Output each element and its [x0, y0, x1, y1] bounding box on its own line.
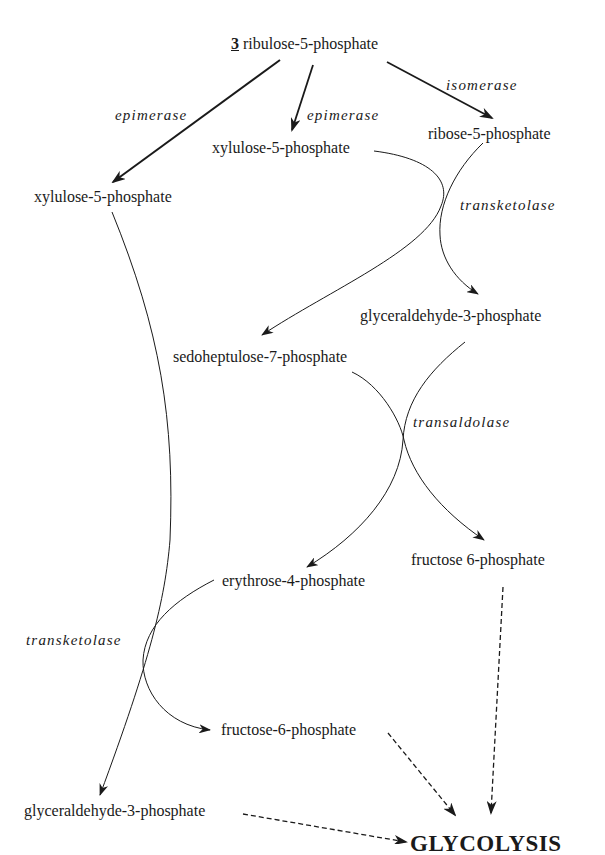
node-ribulose-label: ribulose-5-phosphate — [243, 35, 378, 52]
enzyme-epimerase-mid: epimerase — [307, 106, 379, 124]
enzyme-transketolase-lower: transketolase — [26, 631, 122, 649]
stoichiometry-count: 3 — [231, 35, 239, 52]
enzyme-transaldolase: transaldolase — [413, 413, 510, 431]
curve-xylulose-left-to-g3p — [100, 212, 171, 795]
node-g3p-upper: glyceraldehyde-3-phosphate — [360, 307, 541, 325]
curve-sedoheptulose-to-fructose — [352, 372, 484, 540]
curve-erythrose-to-fructose — [143, 580, 214, 730]
node-sedoheptulose-7-phosphate: sedoheptulose-7-phosphate — [173, 348, 347, 366]
curve-ribose-to-g3p — [440, 143, 483, 294]
node-xylulose-left: xylulose-5-phosphate — [34, 188, 172, 206]
enzyme-epimerase-left: epimerase — [115, 106, 187, 124]
dashed-fructose-right-to-glycolysis — [491, 587, 503, 813]
node-fructose-6-phosphate-right: fructose 6-phosphate — [411, 551, 545, 569]
node-erythrose-4-phosphate: erythrose-4-phosphate — [222, 572, 365, 590]
enzyme-transketolase-upper: transketolase — [460, 196, 556, 214]
dashed-g3p-to-glycolysis — [243, 814, 406, 842]
node-ribose-5-phosphate: ribose-5-phosphate — [428, 125, 551, 143]
node-ribulose-5-phosphate: 3 ribulose-5-phosphate — [231, 35, 378, 53]
enzyme-isomerase: isomerase — [446, 76, 518, 94]
node-xylulose-mid: xylulose-5-phosphate — [212, 139, 350, 157]
curve-g3p-to-erythrose — [307, 342, 465, 567]
dashed-fructose-lower-to-glycolysis — [388, 733, 455, 815]
node-fructose-6-phosphate-lower: fructose-6-phosphate — [221, 721, 356, 739]
node-glycolysis: GLYCOLYSIS — [410, 831, 562, 855]
node-g3p-lower: glyceraldehyde-3-phosphate — [24, 802, 205, 820]
